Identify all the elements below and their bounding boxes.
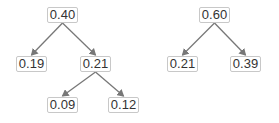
tree-node: 0.39 [230,56,261,72]
edge-arrow [183,23,215,55]
tree-node: 0.09 [47,97,78,113]
tree-node: 0.60 [199,7,230,23]
tree-node: 0.21 [167,56,198,72]
tree-node: 0.12 [108,97,139,113]
edge-arrow [32,23,63,55]
edge-arrow [96,72,124,96]
edge-arrow [63,72,96,96]
edge-arrow [215,23,246,55]
tree-node: 0.40 [47,7,78,23]
tree-node: 0.21 [80,56,111,72]
tree-node: 0.19 [16,56,47,72]
edge-arrow [63,23,96,55]
